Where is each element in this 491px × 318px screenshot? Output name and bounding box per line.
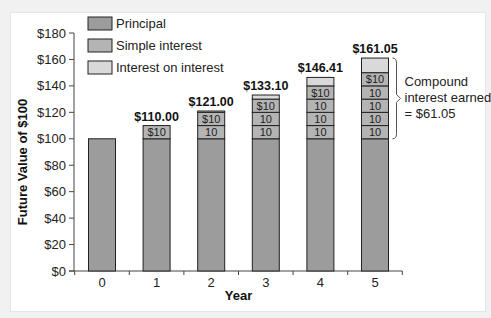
y-tick-label: $140 <box>37 78 66 93</box>
bar-principal <box>198 139 225 271</box>
segment-label: 10 <box>314 126 326 138</box>
bar-interest-on-interest <box>362 58 389 73</box>
y-tick-label: $160 <box>37 52 66 67</box>
bar-principal <box>362 139 389 271</box>
annotation-text: interest earned <box>405 90 491 105</box>
x-tick-label: 5 <box>371 275 378 290</box>
x-tick-label: 3 <box>262 275 269 290</box>
bar-interest-on-interest <box>198 111 225 112</box>
segment-label: $10 <box>366 73 384 85</box>
segment-label: 10 <box>314 100 326 112</box>
annotation-text: = $61.05 <box>405 106 456 121</box>
y-tick-label: $80 <box>44 158 66 173</box>
bar-total-label: $121.00 <box>189 95 234 109</box>
bar-total-label: $146.41 <box>298 61 343 75</box>
y-tick-label: $100 <box>37 131 66 146</box>
y-tick-label: $0 <box>52 264 66 279</box>
segment-label: 10 <box>205 126 217 138</box>
segment-label: $10 <box>202 113 220 125</box>
y-tick-label: $180 <box>37 26 66 41</box>
segment-label: 10 <box>369 126 381 138</box>
y-tick-label: $120 <box>37 105 66 120</box>
segment-label: 10 <box>260 113 272 125</box>
segment-label: 10 <box>369 100 381 112</box>
y-tick-label: $40 <box>44 211 66 226</box>
bar-interest-on-interest <box>252 95 279 99</box>
segment-label: $10 <box>311 87 329 99</box>
stacked-bar-chart: $0$20$40$60$80$100$120$140$160$180012345… <box>0 0 491 318</box>
y-tick-label: $60 <box>44 184 66 199</box>
segment-label: 10 <box>369 87 381 99</box>
x-tick-label: 4 <box>317 275 324 290</box>
legend-label: Interest on interest <box>116 60 224 75</box>
bar-interest-on-interest <box>307 77 334 85</box>
y-tick-label: $20 <box>44 237 66 252</box>
legend-label: Simple interest <box>116 38 202 53</box>
legend-swatch-0 <box>88 17 112 30</box>
segment-label: $10 <box>257 100 275 112</box>
bar-principal <box>252 139 279 271</box>
legend-label: Principal <box>116 16 166 31</box>
bar-principal <box>143 139 170 271</box>
segment-label: 10 <box>369 113 381 125</box>
x-tick-label: 0 <box>98 275 105 290</box>
legend-swatch-1 <box>88 39 112 52</box>
x-tick-label: 2 <box>208 275 215 290</box>
segment-label: $10 <box>147 126 165 138</box>
bar-principal <box>307 139 334 271</box>
y-axis-title: Future Value of $100 <box>15 99 30 225</box>
bar-total-label: $161.05 <box>352 42 397 56</box>
bar-total-label: $110.00 <box>134 110 179 124</box>
annotation-text: Compound <box>405 74 469 89</box>
x-axis-title: Year <box>225 288 252 303</box>
x-tick-label: 1 <box>153 275 160 290</box>
segment-label: 10 <box>314 113 326 125</box>
bar-total-label: $133.10 <box>243 79 288 93</box>
bar-principal <box>89 139 116 271</box>
segment-label: 10 <box>260 126 272 138</box>
bracket-annotation <box>393 58 401 139</box>
legend-swatch-2 <box>88 61 112 74</box>
